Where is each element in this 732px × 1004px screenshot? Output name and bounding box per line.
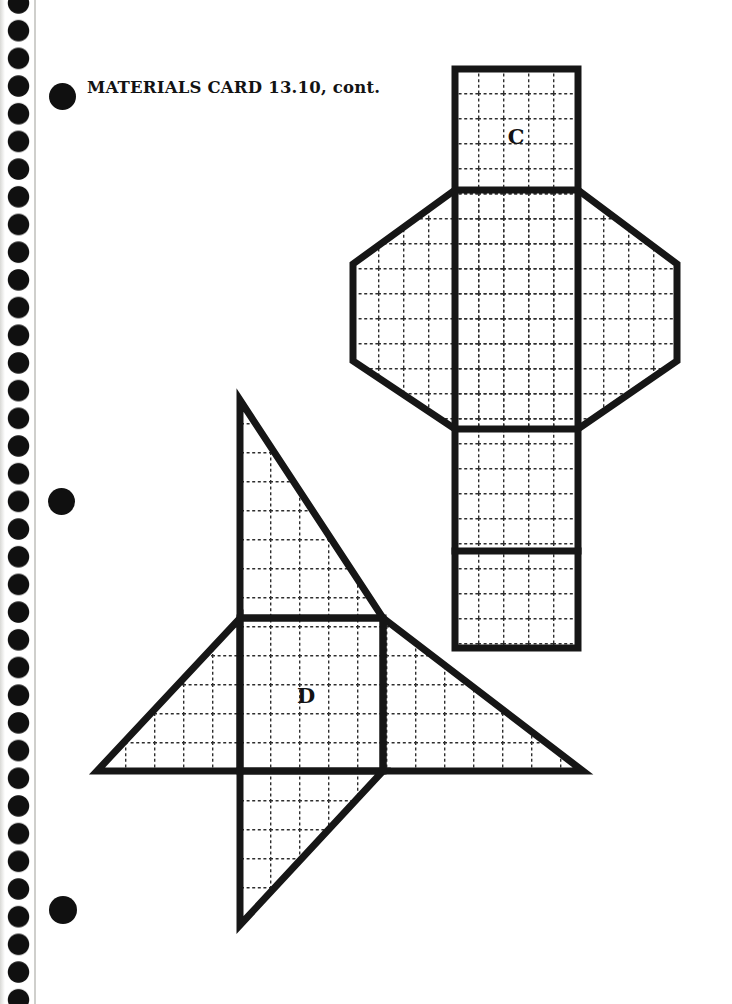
net-c-strip-fill xyxy=(455,69,578,648)
nets-figure xyxy=(0,0,732,1004)
net-c xyxy=(353,69,677,648)
net-c-label: C xyxy=(508,126,525,147)
scanned-page: MATERIALS CARD 13.10, cont. xyxy=(0,0,732,1004)
net-d-label: D xyxy=(297,685,315,706)
